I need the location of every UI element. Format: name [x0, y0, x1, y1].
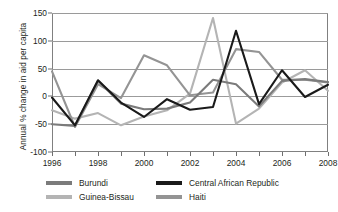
series-line-central-african-republic [52, 31, 328, 126]
y-axis-title: Annual % change in aid per capita [19, 12, 28, 162]
x-tickmark-2006 [282, 152, 283, 156]
x-tickmark-1997 [75, 152, 76, 156]
x-tick-label-2006: 2006 [273, 158, 292, 168]
legend-swatch-haiti [156, 195, 182, 198]
series-line-burundi [52, 79, 328, 126]
y-tick-label-0: 0 [42, 91, 52, 101]
x-tickmark-2004 [236, 152, 237, 156]
x-tickmark-2001 [167, 152, 168, 156]
legend-label-burundi: Burundi [79, 178, 108, 188]
x-tickmark-1996 [52, 152, 53, 156]
x-tick-label-2002: 2002 [181, 158, 200, 168]
x-tickmark-2003 [213, 152, 214, 156]
y-tick-label--50: -50 [35, 119, 52, 129]
plot-area: -100-50050100150 19961998200020022004200… [52, 13, 328, 152]
legend-row-1: Burundi Central African Republic [46, 176, 326, 190]
y-tick-label-150: 150 [33, 8, 52, 18]
series-layer [52, 13, 328, 152]
y-tick-label--100: -100 [30, 147, 52, 157]
legend-item-burundi: Burundi [46, 178, 156, 188]
aid-per-capita-line-chart: Annual % change in aid per capita -100-5… [0, 0, 338, 212]
legend-row-2: Guinea-Bissau Haiti [46, 190, 326, 204]
legend-swatch-guinea-bissau [46, 195, 72, 198]
legend-item-central-african-republic: Central African Republic [156, 178, 279, 188]
legend-label-guinea-bissau: Guinea-Bissau [79, 192, 134, 202]
x-tick-label-1998: 1998 [89, 158, 108, 168]
x-tickmark-1999 [121, 152, 122, 156]
legend-label-central-african-republic: Central African Republic [189, 178, 279, 188]
x-tickmark-2007 [305, 152, 306, 156]
y-tick-label-100: 100 [33, 36, 52, 46]
x-tick-label-2004: 2004 [227, 158, 246, 168]
x-tickmark-2000 [144, 152, 145, 156]
chart-legend: Burundi Central African Republic Guinea-… [46, 176, 326, 204]
legend-item-guinea-bissau: Guinea-Bissau [46, 192, 156, 202]
x-tick-label-2000: 2000 [135, 158, 154, 168]
legend-item-haiti: Haiti [156, 192, 206, 202]
legend-swatch-burundi [46, 181, 72, 184]
legend-swatch-central-african-republic [156, 181, 182, 184]
x-tickmark-2005 [259, 152, 260, 156]
x-tickmark-2008 [328, 152, 329, 156]
x-tickmark-1998 [98, 152, 99, 156]
x-tick-label-2008: 2008 [319, 158, 338, 168]
legend-label-haiti: Haiti [189, 192, 206, 202]
y-tick-label-50: 50 [38, 64, 52, 74]
x-tickmark-2002 [190, 152, 191, 156]
x-tick-label-1996: 1996 [43, 158, 62, 168]
